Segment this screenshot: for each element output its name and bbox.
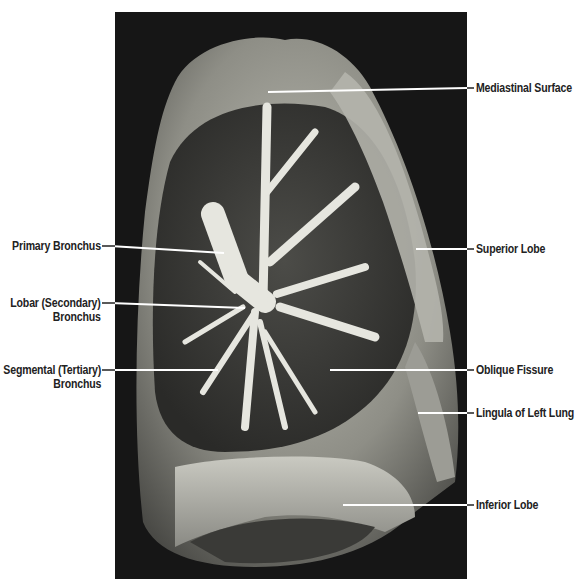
label-superior-lobe: Superior Lobe xyxy=(476,242,545,256)
label-inferior-lobe: Inferior Lobe xyxy=(476,498,538,512)
leader-lobar-bronchus xyxy=(110,303,245,308)
label-lingula: Lingula of Left Lung xyxy=(476,406,574,420)
leader-primary-bronchus xyxy=(110,246,224,253)
label-segmental-bronchus: Segmental (Tertiary) Bronchus xyxy=(3,363,101,391)
leader-mediastinal-surface xyxy=(268,88,467,92)
label-mediastinal-surface: Mediastinal Surface xyxy=(476,81,572,95)
label-oblique-fissure: Oblique Fissure xyxy=(476,363,553,377)
label-primary-bronchus: Primary Bronchus xyxy=(12,239,101,253)
label-lobar-bronchus: Lobar (Secondary) Bronchus xyxy=(11,296,101,324)
